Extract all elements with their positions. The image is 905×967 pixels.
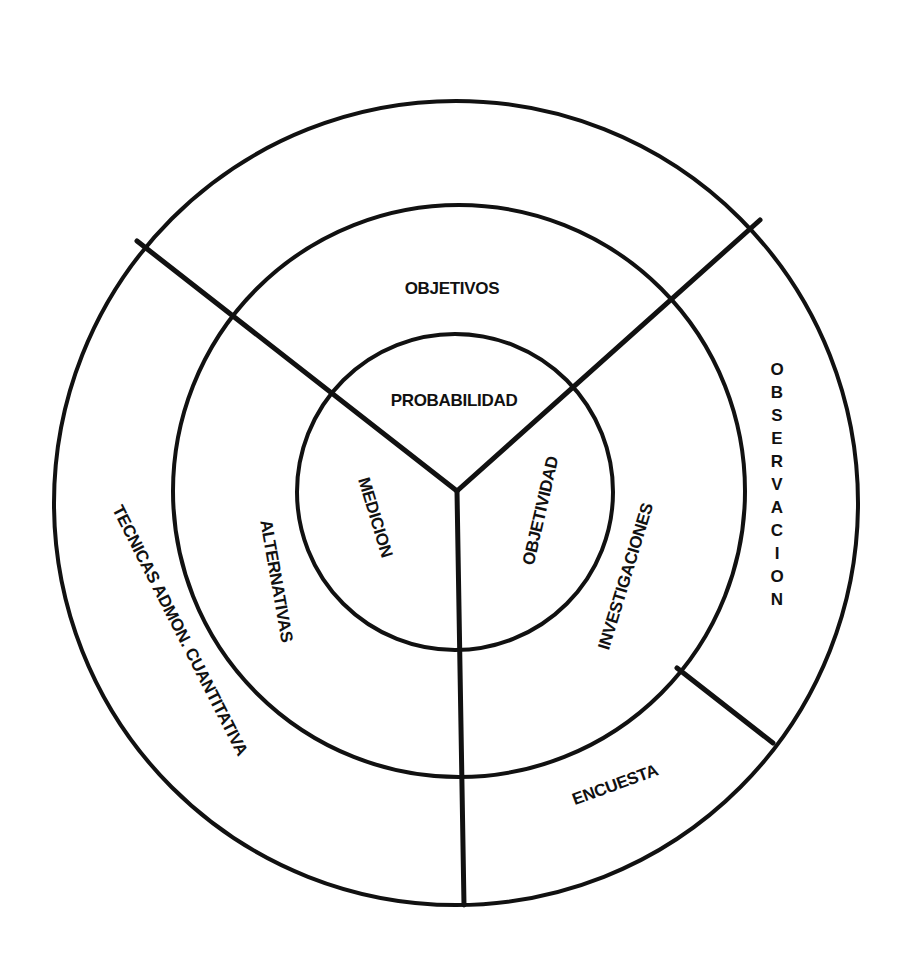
label-investigaciones: INVESTIGACIONES [594,501,657,652]
observacion-letter: O [770,360,783,379]
label-alternativas: ALTERNATIVAS [256,518,296,643]
observacion-letter: C [771,521,783,540]
label-observacion: O B S E R V A C I O N [770,360,783,609]
label-objetividad: OBJETIVIDAD [519,455,562,567]
label-medicion: MEDICION [354,475,396,560]
observacion-letter: E [771,429,782,448]
observacion-letter: A [771,498,783,517]
observacion-letter: I [775,544,780,563]
label-objetivos: OBJETIVOS [405,279,500,298]
observacion-letter: N [771,590,783,609]
observacion-letter: V [771,475,783,494]
label-probabilidad: PROBABILIDAD [391,391,518,410]
observacion-letter: S [771,406,782,425]
concentric-diagram: PROBABILIDAD MEDICION OBJETIVIDAD OBJETI… [0,0,905,967]
observacion-letter: O [770,567,783,586]
divider-encuesta-observacion [677,668,773,743]
label-tecnicas-admon-cuantitativa: TECNICAS ADMON. CUANTITATIVA [108,502,251,758]
divider-bottom [457,491,464,905]
label-encuesta: ENCUESTA [570,761,661,810]
observacion-letter: B [771,383,783,402]
observacion-letter: R [771,452,783,471]
